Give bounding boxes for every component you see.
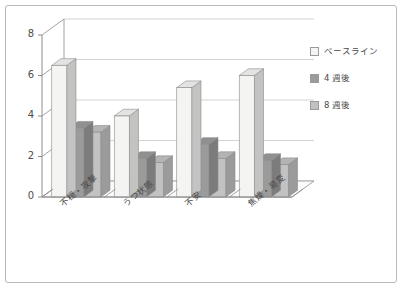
legend-label-week4: 4 週後 [324, 73, 350, 83]
bar-side-face [129, 109, 138, 197]
legend-item-week8[interactable]: 8 週後 [310, 98, 400, 112]
bar-3-0[interactable] [239, 69, 263, 197]
bar-side-face [226, 152, 235, 197]
chart-legend: ベースライン 4 週後 8 週後 [310, 44, 400, 125]
y-axis-label-2: 2 [20, 150, 34, 161]
legend-item-week4[interactable]: 4 週後 [310, 71, 400, 85]
legend-label-baseline: ベースライン [324, 46, 378, 56]
chart-container: ベースライン 4 週後 8 週後 02468 不穏・攻撃うつ状態不安焦燥・易変 [0, 0, 404, 290]
axis-depth-connector-8 [42, 19, 64, 35]
bar-2-0[interactable] [177, 81, 201, 197]
legend-swatch-baseline-icon [310, 47, 319, 56]
bar-side-face [254, 69, 263, 197]
bar-side-face [67, 59, 76, 197]
bar-side-face [101, 125, 110, 197]
legend-swatch-week4-icon [310, 74, 319, 83]
bar-side-face [209, 138, 218, 197]
bar-1-0[interactable] [114, 109, 138, 197]
legend-swatch-week8-icon [310, 101, 319, 110]
y-axis-label-4: 4 [20, 109, 34, 120]
bar-side-face [192, 81, 201, 197]
y-axis-label-8: 8 [20, 28, 34, 39]
bar-front-face [239, 76, 254, 198]
y-axis-label-6: 6 [20, 69, 34, 80]
bar-front-face [177, 88, 192, 197]
bar-side-face [163, 156, 172, 197]
legend-label-week8: 8 週後 [324, 100, 350, 110]
bar-front-face [52, 65, 67, 197]
legend-item-baseline[interactable]: ベースライン [310, 44, 400, 58]
y-axis-label-0: 0 [20, 190, 34, 201]
bar-front-face [114, 116, 129, 197]
bar-0-0[interactable] [52, 59, 76, 197]
